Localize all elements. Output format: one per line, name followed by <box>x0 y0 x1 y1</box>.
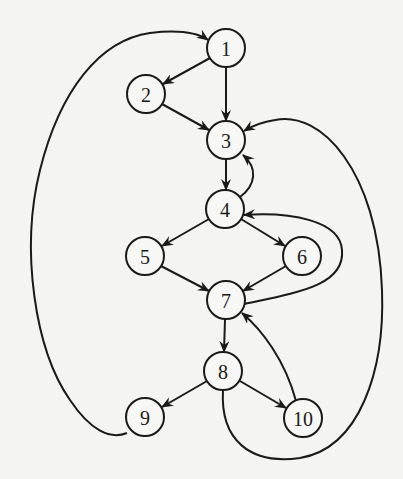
node-2: 2 <box>127 75 165 113</box>
node-3: 3 <box>207 121 245 159</box>
node-5: 5 <box>126 237 164 275</box>
edge-7-8 <box>224 319 225 352</box>
edge-9-1 <box>31 31 208 435</box>
edge-4-5 <box>162 219 209 246</box>
node-label: 9 <box>140 407 150 429</box>
node-10: 10 <box>284 399 322 437</box>
node-8: 8 <box>204 352 242 390</box>
node-label: 8 <box>218 361 228 383</box>
edge-8-10 <box>240 381 286 408</box>
node-4: 4 <box>206 190 244 228</box>
node-7: 7 <box>207 281 245 319</box>
node-label: 3 <box>221 130 231 152</box>
node-label: 6 <box>297 246 307 268</box>
edge-6-7 <box>243 266 286 291</box>
node-9: 9 <box>126 398 164 436</box>
flow-graph-diagram: 1 2 3 4 5 6 7 8 9 10 <box>0 0 403 479</box>
edge-8-9 <box>162 381 207 407</box>
edge-1-2 <box>163 58 210 84</box>
node-label: 2 <box>141 84 151 106</box>
node-label: 10 <box>293 408 313 430</box>
node-label: 4 <box>220 199 230 221</box>
node-6: 6 <box>283 237 321 275</box>
node-label: 5 <box>140 246 150 268</box>
node-1: 1 <box>207 29 245 67</box>
node-label: 1 <box>221 38 231 60</box>
edge-2-3 <box>162 104 209 130</box>
node-label: 7 <box>221 290 231 312</box>
edge-4-6 <box>241 219 285 246</box>
edge-4-3 <box>240 155 253 197</box>
edge-5-7 <box>161 266 209 291</box>
